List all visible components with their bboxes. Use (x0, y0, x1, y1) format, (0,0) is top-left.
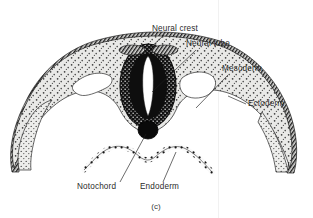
figure-caption: (c) (151, 202, 161, 211)
notochord-body (138, 121, 158, 139)
embryo-cross-section-figure: Neural crest Neural tube Mesoderm Ectode… (0, 0, 313, 218)
label-endoderm: Endoderm (140, 182, 179, 191)
label-neural-crest: Neural crest (152, 24, 199, 33)
neural-tube-body (120, 44, 176, 128)
label-mesoderm: Mesoderm (222, 64, 262, 73)
label-neural-tube: Neural tube (186, 39, 230, 48)
endoderm-layer (84, 146, 212, 172)
label-ectoderm: Ectoderm (248, 99, 284, 108)
coelom-right (180, 72, 216, 98)
label-notochord: Notochord (77, 182, 116, 191)
